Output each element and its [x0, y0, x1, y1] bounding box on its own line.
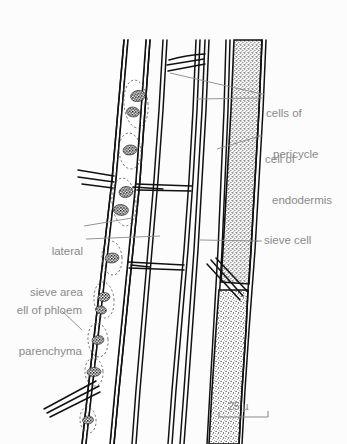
figure-container: cells of pericycle cell of endodermis si…	[0, 0, 347, 444]
label-lateral-sieve-area-line1: lateral	[0, 245, 83, 259]
label-cell-of-phloem-parenchyma-line1: ell of phloem	[0, 304, 82, 318]
label-sieve-cell: sieve cell	[264, 234, 311, 248]
label-cell-of-endodermis-line1: cell of	[265, 153, 332, 167]
label-cells-of-pericycle-line1: cells of	[266, 107, 318, 121]
label-cell-of-phloem-parenchyma-line2: parenchyma	[0, 345, 82, 359]
label-cell-of-phloem-parenchyma: ell of phloem parenchyma	[0, 277, 82, 385]
scale-bar-label: 25 µ	[228, 400, 249, 412]
label-cell-of-endodermis: cell of endodermis	[265, 126, 332, 234]
label-cell-of-endodermis-line2: endodermis	[265, 194, 332, 208]
lateral-branch-upper	[78, 170, 114, 188]
